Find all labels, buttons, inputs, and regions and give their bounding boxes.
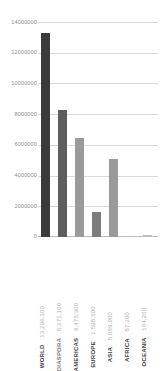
category-value: 13,296,100	[39, 306, 45, 338]
category-name: DIASPORA	[56, 338, 62, 371]
bar-europe	[92, 212, 101, 237]
category-value: 1,598,500	[90, 306, 96, 335]
x-label-world: WORLD 13,296,100	[38, 239, 55, 337]
x-label-diaspora: DIASPORA 8,271,100	[55, 239, 72, 337]
category-name: OCEANIA	[141, 337, 147, 366]
category-name: AFRICA	[124, 338, 130, 362]
bar-asia	[109, 159, 118, 237]
category-value: 5,089,900	[107, 312, 113, 341]
x-label-americas: AMERICAS 6,476,300	[72, 239, 89, 337]
x-label-oceania: OCEANIA 104,200	[140, 239, 157, 337]
y-axis: 14000000 12000000 10000000 8000000 60000…	[0, 0, 37, 337]
category-name: WORLD	[39, 345, 45, 369]
y-tick-label: 10000000	[1, 80, 37, 86]
x-label-africa: AFRICA 87,200	[123, 239, 140, 337]
y-tick-label: 4000000	[1, 172, 37, 178]
y-tick-label: 12000000	[1, 49, 37, 55]
y-tick-label: 14000000	[1, 19, 37, 25]
plot-area	[38, 22, 158, 237]
bar-africa	[126, 236, 135, 238]
y-tick-label: 2000000	[1, 203, 37, 209]
y-tick-label: 6000000	[1, 141, 37, 147]
bar-diaspora	[58, 110, 67, 237]
category-name: AMERICAS	[73, 338, 79, 371]
category-name: EUROPE	[90, 341, 96, 368]
y-tick-label: 0	[1, 233, 37, 239]
y-tick-label: 8000000	[1, 111, 37, 117]
category-value: 8,271,100	[56, 303, 62, 332]
category-value: 6,476,300	[73, 303, 79, 332]
x-label-asia: ASIA 5,089,900	[106, 239, 123, 337]
bar-americas	[75, 138, 84, 238]
bar-oceania	[143, 235, 152, 237]
category-value: 104,200	[141, 308, 147, 331]
x-label-europe: EUROPE 1,598,500	[89, 239, 106, 337]
bar-series	[38, 22, 158, 237]
bar-world	[41, 33, 50, 237]
category-name: ASIA	[107, 347, 113, 362]
x-axis-labels: WORLD 13,296,100 DIASPORA 8,271,100 AMER…	[38, 239, 158, 337]
category-value: 87,200	[124, 312, 130, 332]
